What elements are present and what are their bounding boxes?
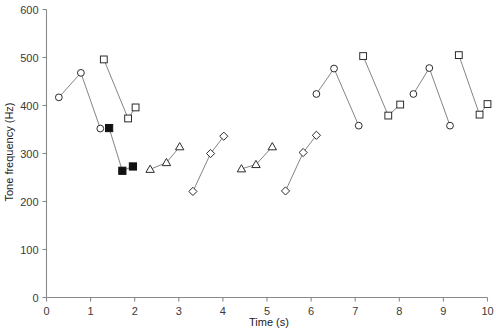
datapoint-filled-square-group-1-1 — [119, 167, 126, 174]
x-tick-label-2: 2 — [132, 305, 138, 317]
y-tick-label-600: 600 — [20, 4, 38, 16]
series-line-diamond-group-1 — [193, 136, 224, 191]
datapoint-triangle-group-2-2 — [268, 143, 276, 150]
x-tick-label-5: 5 — [264, 305, 270, 317]
datapoint-circle-group-2-0 — [313, 91, 320, 98]
datapoint-square-group-3-0 — [455, 52, 462, 59]
x-tick-label-8: 8 — [396, 305, 402, 317]
x-tick-label-7: 7 — [352, 305, 358, 317]
datapoint-square-group-3-2 — [484, 101, 491, 108]
y-axis-title: Tone frequency (Hz) — [3, 102, 15, 201]
datapoint-filled-square-group-1-2 — [129, 163, 136, 170]
datapoint-circle-group-3-1 — [426, 65, 433, 72]
series-triangle-group-1 — [146, 143, 184, 173]
datapoint-square-group-2-0 — [360, 53, 367, 60]
datapoint-circle-group-1-1 — [77, 69, 84, 76]
datapoint-square-group-2-2 — [397, 101, 404, 108]
datapoint-circle-group-1-2 — [97, 125, 104, 132]
axes-layer: 0100200300400500600012345678910 — [20, 4, 493, 317]
datapoint-filled-square-group-1-0 — [106, 124, 113, 131]
y-tick-label-100: 100 — [20, 244, 38, 256]
series-filled-square-group-1 — [106, 124, 137, 174]
datapoint-square-group-3-1 — [476, 111, 483, 118]
x-tick-label-4: 4 — [220, 305, 226, 317]
series-line-circle-group-3 — [413, 68, 450, 126]
series-line-circle-group-2 — [316, 69, 358, 126]
y-tick-label-500: 500 — [20, 52, 38, 64]
datapoint-diamond-group-1-2 — [220, 132, 228, 140]
datapoint-square-group-2-1 — [385, 112, 392, 119]
series-triangle-group-2 — [237, 143, 276, 172]
series-diamond-group-2 — [281, 131, 320, 195]
x-tick-label-9: 9 — [440, 305, 446, 317]
series-line-square-group-1 — [104, 59, 136, 118]
series-line-square-group-3 — [459, 55, 488, 115]
labels-layer: Time (s) Tone frequency (Hz) — [3, 102, 289, 328]
datapoint-square-group-1-1 — [125, 115, 132, 122]
datapoint-diamond-group-1-1 — [206, 149, 214, 157]
datapoint-square-group-1-2 — [132, 104, 139, 111]
datapoint-diamond-group-2-1 — [299, 148, 307, 156]
series-square-group-3 — [455, 52, 490, 118]
series-line-diamond-group-2 — [286, 135, 317, 191]
y-tick-label-300: 300 — [20, 148, 38, 160]
y-tick-label-400: 400 — [20, 100, 38, 112]
y-tick-label-0: 0 — [32, 292, 38, 304]
series-layer — [55, 52, 490, 196]
datapoint-circle-group-1-0 — [55, 94, 62, 101]
datapoint-diamond-group-2-0 — [281, 187, 289, 195]
series-square-group-2 — [360, 53, 404, 119]
datapoint-triangle-group-1-2 — [175, 143, 183, 150]
series-square-group-1 — [100, 56, 139, 122]
x-axis-title: Time (s) — [249, 316, 289, 328]
x-tick-label-1: 1 — [88, 305, 94, 317]
series-circle-group-1 — [55, 69, 103, 131]
x-tick-label-0: 0 — [43, 305, 49, 317]
series-circle-group-2 — [313, 65, 362, 129]
x-tick-label-6: 6 — [308, 305, 314, 317]
datapoint-diamond-group-1-0 — [189, 187, 197, 195]
datapoint-diamond-group-2-2 — [312, 131, 320, 139]
datapoint-circle-group-2-1 — [331, 65, 338, 72]
y-tick-label-200: 200 — [20, 196, 38, 208]
datapoint-square-group-1-0 — [100, 56, 107, 63]
datapoint-circle-group-2-2 — [355, 122, 362, 129]
series-diamond-group-1 — [189, 132, 228, 195]
x-tick-label-10: 10 — [481, 305, 493, 317]
series-line-square-group-2 — [363, 56, 400, 116]
series-line-circle-group-1 — [59, 73, 100, 129]
tone-frequency-scatter-chart: 0100200300400500600012345678910 Time (s)… — [0, 0, 496, 334]
series-circle-group-3 — [410, 65, 453, 129]
datapoint-circle-group-3-2 — [447, 122, 454, 129]
datapoint-triangle-group-1-0 — [146, 165, 154, 172]
chart-canvas: 0100200300400500600012345678910 Time (s)… — [0, 0, 496, 334]
datapoint-circle-group-3-0 — [410, 91, 417, 98]
x-tick-label-3: 3 — [176, 305, 182, 317]
